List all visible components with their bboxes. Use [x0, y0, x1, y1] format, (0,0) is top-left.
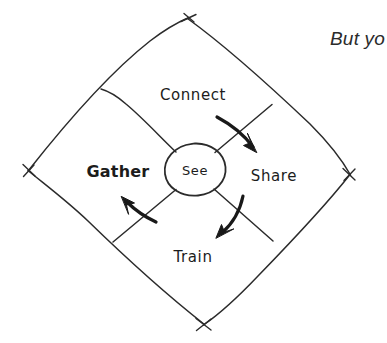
diamond-edge-bottom-left — [28, 171, 205, 325]
diamond-outline — [28, 18, 351, 326]
vertex-cross-marks — [23, 14, 355, 331]
arrow-train-to-gather — [122, 197, 157, 223]
divider-upper-left — [101, 89, 176, 152]
quadrant-dividers — [101, 89, 273, 242]
diamond-edge-top-right — [188, 19, 351, 176]
sketch-canvas: Connect Share Train Gather See But yo — [0, 0, 387, 343]
diamond-edge-top-left — [29, 18, 190, 171]
diamond-edge-bottom-right — [204, 175, 351, 326]
center-circle — [165, 143, 226, 195]
vertex-mark-top-2 — [184, 14, 194, 23]
diagram-drawing — [0, 0, 387, 343]
